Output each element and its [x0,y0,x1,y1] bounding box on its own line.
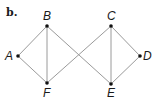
vertex-label-a: A [4,49,13,63]
vertex-a [16,54,20,58]
vertex-d [138,54,142,58]
panel-label: b. [6,6,18,19]
edge-a-b [18,26,47,56]
vertex-label-f: F [43,86,51,99]
vertex-f [45,81,49,85]
graph-edges [18,26,140,84]
vertex-label-b: B [43,9,51,23]
graph-diagram: b. ABFCED [0,0,158,99]
vertex-b [45,24,49,28]
edge-e-d [111,56,140,84]
vertex-c [109,24,113,28]
vertex-label-c: C [107,9,116,23]
edge-c-d [111,26,140,56]
vertex-label-e: E [107,86,116,99]
vertex-label-d: D [143,49,152,63]
edge-a-f [18,56,47,83]
